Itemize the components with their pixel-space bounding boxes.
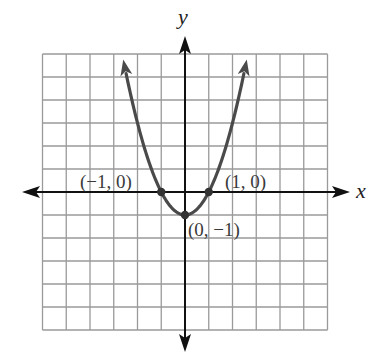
data-point [181,211,189,219]
data-point [205,188,213,196]
parabola-chart: x y (−1, 0) (1, 0) (0, −1) [0,0,383,357]
y-axis-label: y [176,4,188,29]
point-label-1-0: (1, 0) [225,171,266,193]
data-point [157,188,165,196]
axes [22,36,350,352]
point-label-neg1-0: (−1, 0) [80,171,132,193]
point-label-0-neg1: (0, −1) [188,219,240,241]
x-axis-label: x [355,178,366,203]
